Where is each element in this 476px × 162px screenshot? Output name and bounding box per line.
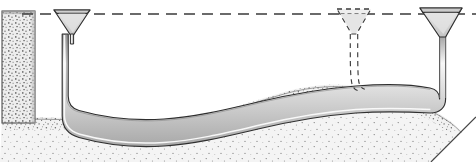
funnel-center-ghost-fill [341,14,367,33]
funnel-left-stem [70,34,73,44]
funnel-left [54,10,90,44]
funnel-left-rim [54,10,90,13]
figure-root: Schematic cross-section showing three fu… [0,0,476,162]
funnel-center-alternate [337,9,371,34]
funnel-right-rim [420,8,462,12]
left-sediment-wall [2,11,35,123]
funnel-right [420,8,462,37]
conduit-alternate-dashed [350,34,365,91]
cross-section-diagram [0,0,476,162]
